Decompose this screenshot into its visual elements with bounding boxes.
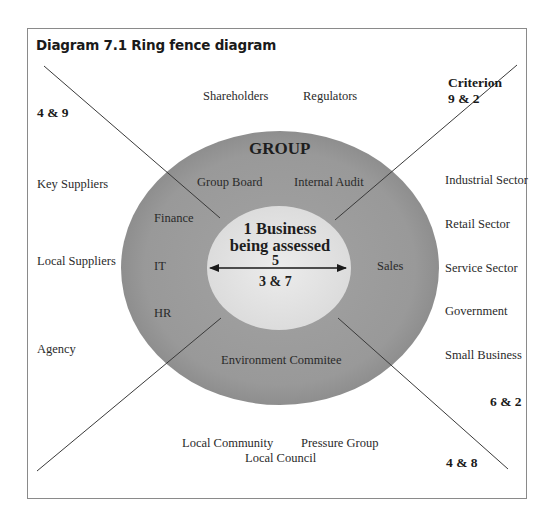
unit-it: IT (154, 260, 166, 273)
criterion-header: Criterion (448, 76, 502, 90)
unit-finance: Finance (154, 212, 194, 225)
criterion-business-5: 5 (272, 254, 279, 268)
stakeholder-local-suppliers: Local Suppliers (37, 255, 116, 268)
stakeholder-regulators: Regulators (303, 90, 357, 103)
unit-group-board: Group Board (197, 176, 263, 189)
stakeholder-small-business: Small Business (445, 349, 522, 362)
criterion-bottom-right: 4 & 8 (446, 456, 478, 470)
stakeholder-agency: Agency (37, 343, 76, 356)
unit-environment-committee: Environment Commitee (221, 354, 341, 367)
stakeholder-pressure-group: Pressure Group (301, 437, 378, 450)
business-title-line2: being assessed (214, 237, 346, 254)
criterion-business-3-7: 3 & 7 (259, 275, 292, 289)
criterion-right: 6 & 2 (490, 395, 522, 409)
unit-hr: HR (154, 307, 171, 320)
stakeholder-local-council: Local Council (245, 452, 316, 465)
unit-sales: Sales (377, 260, 403, 273)
stakeholder-retail-sector: Retail Sector (445, 218, 510, 231)
stakeholder-service-sector: Service Sector (445, 262, 518, 275)
criterion-top-right: 9 & 2 (448, 92, 480, 106)
stakeholder-local-community: Local Community (182, 437, 273, 450)
criterion-top-left: 4 & 9 (37, 106, 69, 120)
unit-internal-audit: Internal Audit (294, 176, 364, 189)
stakeholder-key-suppliers: Key Suppliers (37, 178, 108, 191)
group-title: GROUP (249, 140, 310, 157)
stakeholder-industrial-sector: Industrial Sector (445, 174, 528, 187)
stakeholder-government: Government (445, 305, 507, 318)
divider-line-top-left (44, 66, 220, 218)
business-title-line1: 1 Business (229, 220, 331, 237)
stakeholder-shareholders: Shareholders (203, 90, 268, 103)
